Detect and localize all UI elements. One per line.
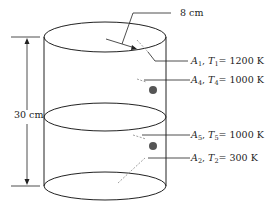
cylinder: [44, 22, 166, 200]
arrow-down-icon: [25, 179, 30, 185]
a4-dot: [149, 86, 157, 94]
radius-label: 8 cm: [180, 7, 203, 18]
bottom-disk: [44, 172, 166, 200]
a1-leader: [137, 40, 188, 61]
arrow-up-icon: [25, 38, 30, 44]
middle-disk: [44, 103, 166, 131]
radius-arrow-icon: [131, 45, 137, 50]
a5-dot: [149, 142, 157, 150]
label-a5: A5, T5= 1000 K: [190, 129, 265, 142]
a4-leader: [137, 79, 190, 82]
cylinder-diagram: 30 cm 8 cm A1, T1= 1200 K A4, T4= 1000 K…: [0, 0, 268, 206]
a5-leader: [133, 135, 190, 139]
label-a4: A4, T4= 1000 K: [190, 74, 265, 87]
label-a1: A1, T1= 1200 K: [190, 55, 265, 68]
label-a2: A2, T2= 300 K: [190, 152, 259, 165]
a2-leader: [118, 158, 190, 183]
height-label: 30 cm: [14, 109, 43, 120]
top-disk: [44, 22, 166, 52]
